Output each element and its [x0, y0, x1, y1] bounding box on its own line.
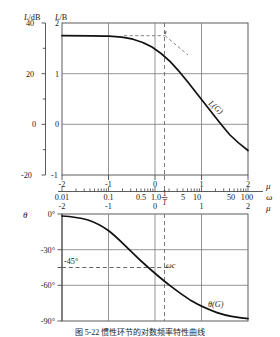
mu-tick-lower-1: 1 [199, 202, 203, 211]
magnitude-left-tick-neg20: -20 [21, 171, 32, 180]
magnitude-left-tick-20: 20 [26, 70, 34, 79]
phase-tick--90: -90° [41, 317, 55, 326]
mu-tick-lower--2: -2 [59, 202, 66, 211]
magnitude-curve-label: L(G) [206, 98, 225, 116]
mu-tick-labels-lower: -2 -1 0 1 2 [59, 202, 250, 211]
magnitude-left-tick-labels: 40 20 0 -20 [21, 19, 36, 180]
omega-c-marker-label: ωc [166, 261, 176, 270]
magnitude-plot: L/dB L/B 40 20 0 -20 2 1 0 -1 L(G) [21, 13, 248, 180]
magnitude-right-tick-labels: 2 1 0 -1 [51, 19, 59, 180]
phase-axis-title: θ [23, 210, 28, 220]
phase-tick--60: -60° [41, 281, 55, 290]
shared-x-axis: -2 -1 0 1 2 [55, 175, 273, 207]
omega-axis-label: ω [266, 192, 272, 202]
mu-tick-lower-2: 2 [246, 202, 250, 211]
mu-tick-lower-0: 0 [153, 202, 157, 211]
magnitude-right-tick-2: 2 [55, 19, 59, 28]
mu-tick-labels-upper: -2 -1 0 1 2 [59, 180, 250, 189]
magnitude-left-tick-0: 0 [32, 120, 36, 129]
corner-frequency-denominator: T [162, 198, 167, 207]
magnitude-left-axis-ticks [42, 23, 46, 175]
omega-tick-1_0: 1.0 [151, 193, 161, 202]
omega-tick-0_5: 0.5 [136, 193, 146, 202]
phase-curve-label: θ(G) [208, 300, 224, 309]
mu-tick-lower--1: -1 [105, 202, 112, 211]
minus45-label: -45° [64, 257, 78, 266]
mu-axis-label-upper: μ [265, 181, 271, 191]
mu-axis-label-lower: μ [265, 203, 271, 213]
magnitude-right-tick-neg1: -1 [51, 171, 58, 180]
phase-plot: -2 -1 0 1 2 μ θ [23, 202, 271, 326]
omega-log-ticks [62, 187, 248, 192]
magnitude-vertical-gridlines [109, 23, 202, 175]
omega-c-text: ωc [166, 261, 176, 270]
omega-tick-10: 10 [193, 193, 201, 202]
figure-caption: 图 5-22 惯性环节的对数频率特性曲线 [75, 327, 206, 337]
omega-tick-0_01: 0.01 [55, 193, 69, 202]
corner-arrow-icon [164, 31, 167, 35]
magnitude-right-tick-1: 1 [55, 70, 59, 79]
phase-axis-ticks [58, 214, 63, 321]
phase-tick-labels: 0° -30° -60° -90° [41, 210, 55, 326]
omega-tick-5: 5 [181, 193, 185, 202]
omega-tick-100: 100 [241, 193, 253, 202]
bode-plot-figure: L/dB L/B 40 20 0 -20 2 1 0 -1 L(G) [0, 0, 280, 337]
omega-tick-0_1: 0.1 [103, 193, 113, 202]
magnitude-left-tick-40: 40 [26, 19, 34, 28]
bode-plot-svg: L/dB L/B 40 20 0 -20 2 1 0 -1 L(G) [0, 0, 280, 337]
phase-tick--30: -30° [41, 246, 55, 255]
phase-vertical-gridlines [109, 214, 202, 321]
omega-tick-labels: 0.01 0.1 0.5 1.0 5 10 50 100 [55, 193, 253, 202]
magnitude-right-tick-0: 0 [55, 120, 59, 129]
omega-tick-50: 50 [227, 193, 235, 202]
phase-tick-0: 0° [48, 210, 55, 219]
